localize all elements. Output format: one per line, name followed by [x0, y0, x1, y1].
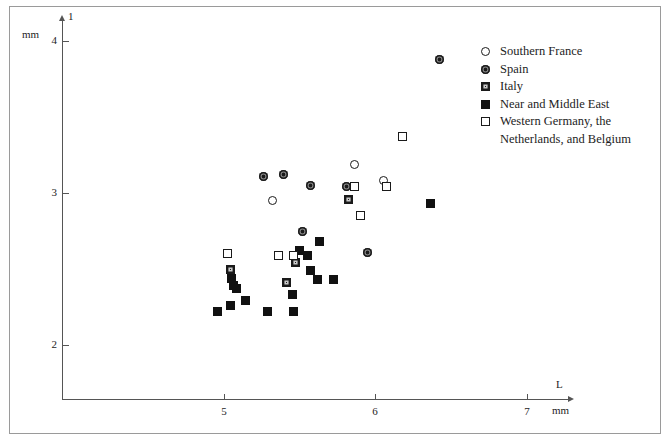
- data-point: [435, 55, 444, 64]
- data-point: [282, 278, 291, 287]
- marker-glyph: [481, 100, 490, 109]
- legend-square-filled-icon: [480, 97, 494, 110]
- data-point: [363, 248, 372, 257]
- x-axis-unit-label: mm: [552, 404, 569, 416]
- x-tick-label-7: 7: [517, 405, 537, 417]
- data-point: [226, 301, 235, 310]
- legend: Southern FranceSpainItalyNear and Middle…: [480, 44, 655, 149]
- data-point: [213, 307, 222, 316]
- data-point: [426, 199, 435, 208]
- y-tick-3: [63, 193, 69, 194]
- legend-item-label: Near and Middle East: [500, 97, 609, 111]
- legend-item: Western Germany, the: [480, 114, 655, 128]
- marker-glyph: [481, 65, 490, 74]
- x-tick-7: [527, 394, 528, 400]
- y-axis-title-label: 1: [68, 10, 74, 22]
- data-point: [350, 160, 359, 169]
- data-point: [350, 182, 359, 191]
- legend-square-half-icon: [480, 79, 494, 92]
- y-tick-2: [63, 345, 69, 346]
- data-point: [303, 251, 312, 260]
- x-axis-arrow-icon: [568, 396, 574, 402]
- legend-item: Netherlands, and Belgium: [480, 132, 655, 146]
- data-point: [241, 296, 250, 305]
- legend-item-label: Southern France: [500, 44, 582, 58]
- data-point: [268, 196, 277, 205]
- data-point: [306, 181, 315, 190]
- legend-item: Southern France: [480, 44, 655, 58]
- data-point: [223, 249, 232, 258]
- data-point: [279, 170, 288, 179]
- x-tick-label-6: 6: [365, 405, 385, 417]
- data-point: [329, 275, 338, 284]
- legend-item-label: Netherlands, and Belgium: [500, 132, 631, 146]
- legend-item-label: Italy: [500, 79, 523, 93]
- x-axis-title-label: L: [556, 378, 563, 390]
- legend-item: Near and Middle East: [480, 97, 655, 111]
- data-point: [232, 284, 241, 293]
- x-tick-5: [224, 394, 225, 400]
- legend-square-open-icon: [480, 114, 494, 127]
- data-point: [382, 182, 391, 191]
- y-axis-line: [62, 18, 63, 400]
- y-axis-unit-label: mm: [22, 28, 39, 40]
- y-tick-label-2: 2: [37, 338, 57, 350]
- data-point: [398, 132, 407, 141]
- y-tick-4: [63, 41, 69, 42]
- data-point: [313, 275, 322, 284]
- data-point: [263, 307, 272, 316]
- data-point: [259, 172, 268, 181]
- data-point: [306, 266, 315, 275]
- x-axis-line: [62, 399, 570, 400]
- data-point: [289, 307, 298, 316]
- legend-item-label: Spain: [500, 62, 528, 76]
- y-tick-label-3: 3: [37, 186, 57, 198]
- data-point: [356, 211, 365, 220]
- legend-circle-open-icon: [480, 44, 494, 57]
- legend-swatch-empty: [480, 132, 494, 145]
- data-point: [288, 290, 297, 299]
- marker-glyph: [481, 117, 490, 126]
- legend-item-label: Western Germany, the: [500, 114, 611, 128]
- y-tick-label-4: 4: [37, 34, 57, 46]
- legend-circle-filled-icon: [480, 62, 494, 75]
- data-point: [274, 251, 283, 260]
- y-axis-arrow-icon: [59, 15, 65, 21]
- data-point: [344, 195, 353, 204]
- x-tick-6: [375, 394, 376, 400]
- data-point: [315, 237, 324, 246]
- scatter-plot-figure: 4 3 2 5 6 7 mm 1 L mm Southern FranceSpa…: [0, 0, 670, 443]
- data-point: [226, 265, 235, 274]
- legend-item: Spain: [480, 62, 655, 76]
- marker-glyph: [481, 82, 490, 91]
- data-point: [289, 251, 298, 260]
- legend-item: Italy: [480, 79, 655, 93]
- marker-glyph: [481, 47, 490, 56]
- data-point: [298, 227, 307, 236]
- x-tick-label-5: 5: [214, 405, 234, 417]
